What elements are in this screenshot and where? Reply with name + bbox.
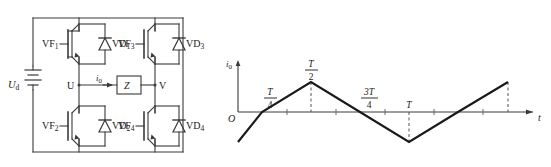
label-vd4: VD4: [186, 120, 204, 133]
label-vf1: VF1: [42, 38, 59, 51]
label-vd3: VD3: [186, 38, 204, 51]
terminal-u-label: U: [67, 80, 75, 91]
transistor-vf1: [60, 24, 80, 64]
transistor-vf4: [136, 106, 156, 146]
x-axis-label: t: [538, 112, 541, 123]
dc-source-symbol: [25, 66, 41, 90]
svg-text:2: 2: [309, 72, 314, 82]
tick-label-half-T: T 2: [305, 59, 318, 82]
current-label-i0: i0: [96, 73, 103, 85]
label-vf2: VF2: [42, 120, 59, 133]
waveform-plot: i0 O t T 4 T 2 3T 4 T: [226, 59, 541, 142]
load-label-z: Z: [124, 80, 130, 91]
svg-text:T: T: [308, 59, 314, 69]
terminal-v-label: V: [159, 80, 167, 91]
tick-label-full-T: T: [406, 100, 412, 110]
svg-text:4: 4: [268, 100, 273, 110]
node-v: [154, 84, 157, 87]
transistor-vf3: [136, 24, 156, 64]
combined-figure: Ud VF1 VF2 VF3 VF4 VD1 VD2 VD3 VD4 U V Z: [0, 0, 551, 167]
y-axis-label: i0: [226, 59, 233, 71]
current-arrow-i0: [103, 82, 113, 87]
svg-text:4: 4: [367, 100, 372, 110]
t-axis-arrowhead: [526, 109, 533, 114]
plot-axes: [236, 60, 533, 115]
transistor-vf2: [60, 106, 80, 146]
svg-text:T: T: [267, 87, 273, 97]
tick-label-quarter-T: T 4: [264, 87, 277, 110]
figure-container: Ud VF1 VF2 VF3 VF4 VD1 VD2 VD3 VD4 U V Z: [0, 0, 551, 167]
svg-text:3T: 3T: [363, 87, 375, 97]
node-u: [78, 84, 81, 87]
source-label: Ud: [8, 79, 20, 92]
circuit-labels: Ud VF1 VF2 VF3 VF4 VD1 VD2 VD3 VD4 U V Z: [8, 38, 204, 133]
origin-label: O: [228, 113, 235, 124]
i-axis-arrowhead: [236, 60, 241, 66]
diode-vd1: [99, 24, 111, 64]
diode-vd2: [99, 106, 111, 146]
tick-label-three-quarter-T: 3T 4: [361, 87, 378, 110]
